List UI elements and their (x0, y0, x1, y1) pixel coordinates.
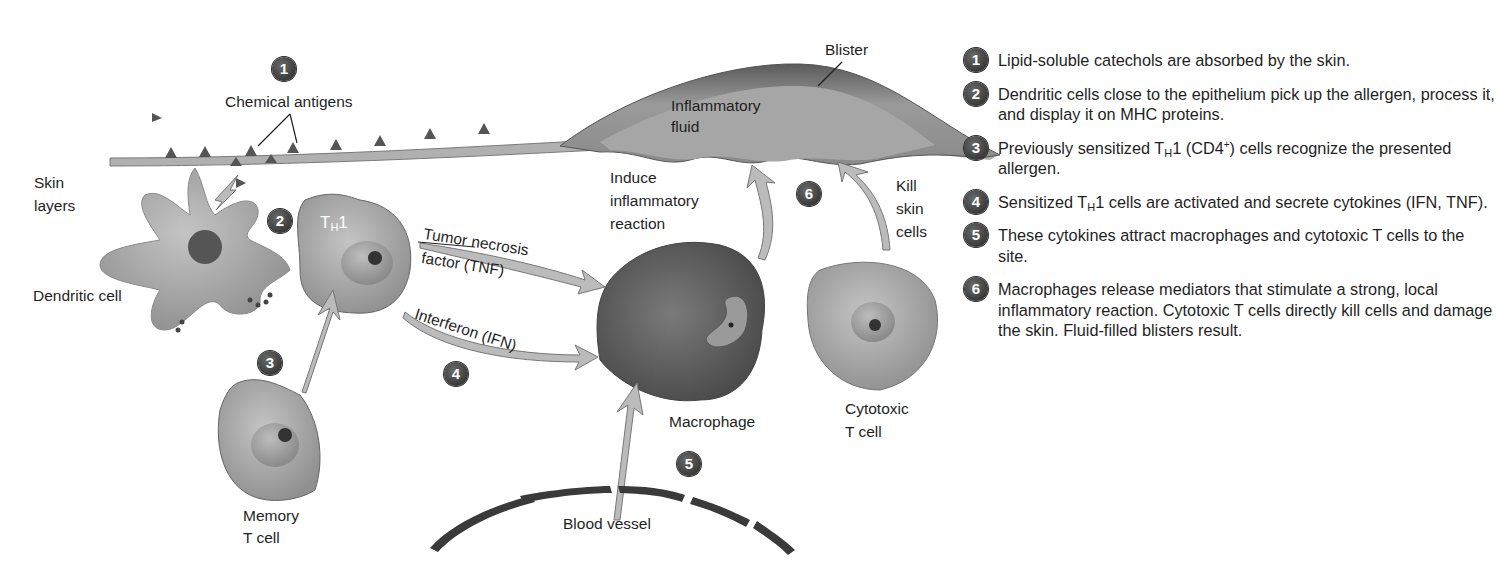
induce-label-line1: Induce (610, 169, 657, 187)
kill-label-line2: skin (896, 200, 924, 218)
step-item-4: 4 Sensitized TH1 cells are activated and… (958, 192, 1498, 213)
memory-t-cell-label-line1: Memory (243, 507, 299, 525)
step-text-1: Lipid-soluble catechols are absorbed by … (998, 51, 1350, 69)
step-list-badge-2: 2 (964, 82, 988, 106)
dendritic-cell-label: Dendritic cell (33, 287, 122, 305)
induce-label-line2: inflammatory (610, 192, 699, 210)
step-item-1: 1 Lipid-soluble catechols are absorbed b… (958, 50, 1498, 71)
blood-vessel-label: Blood vessel (563, 515, 651, 533)
step-list-badge-4: 4 (964, 190, 988, 214)
step-item-3: 3 Previously sensitized TH1 (CD4+) cells… (958, 138, 1498, 179)
step-badge-4: 4 (444, 362, 468, 386)
skin-layers-label-line2: layers (34, 197, 75, 215)
step-list-badge-6: 6 (964, 277, 988, 301)
blister-label: Blister (825, 41, 868, 59)
step-text-6: Macrophages release mediators that stimu… (998, 280, 1492, 339)
step-text-5: These cytokines attract macrophages and … (998, 226, 1464, 265)
blister (560, 64, 1000, 165)
antigen-leader-line (290, 114, 297, 143)
recruitment-arrow (614, 383, 643, 520)
memory-t-cell-label-line2: T cell (243, 529, 280, 547)
memory-t-cell (218, 380, 320, 501)
dendritic-cell (100, 168, 290, 333)
kill-arrow (838, 162, 890, 250)
cytotoxic-t-cell (807, 262, 937, 390)
antigen-leader-line (258, 114, 290, 146)
cytotoxic-t-cell-label-line2: T cell (845, 423, 882, 441)
macrophage-label: Macrophage (669, 413, 755, 431)
cytotoxic-t-cell-label-line1: Cytotoxic (845, 400, 909, 418)
step-badge-3: 3 (258, 351, 282, 375)
th1-t: T (320, 213, 330, 232)
step-badge-2: 2 (268, 209, 292, 233)
step-item-5: 5 These cytokines attract macrophages an… (958, 225, 1498, 266)
skin-layers-label-line1: Skin (34, 174, 64, 192)
step-item-2: 2 Dendritic cells close to the epitheliu… (958, 84, 1498, 125)
kill-label-line3: cells (896, 223, 927, 241)
step-badge-1: 1 (272, 57, 296, 81)
step-text-4: Sensitized TH1 cells are activated and s… (998, 193, 1488, 211)
step-item-6: 6 Macrophages release mediators that sti… (958, 279, 1498, 341)
step-badge-6: 6 (797, 182, 821, 206)
induce-label-line3: reaction (610, 215, 665, 233)
step-list-badge-3: 3 (964, 136, 988, 160)
kill-label-line1: Kill (896, 177, 917, 195)
th1-num: 1 (338, 213, 347, 232)
macrophage-cell (597, 242, 765, 400)
steps-list: 1 Lipid-soluble catechols are absorbed b… (958, 50, 1498, 354)
step-list-badge-1: 1 (964, 48, 988, 72)
inflammatory-fluid-label-line1: Inflammatory (671, 97, 761, 115)
th1-cell-label: TH1 (320, 214, 348, 232)
step-list-badge-5: 5 (964, 223, 988, 247)
step-text-2: Dendritic cells close to the epithelium … (998, 85, 1495, 124)
inflammatory-fluid-label-line2: fluid (671, 118, 699, 136)
step-badge-5: 5 (677, 452, 701, 476)
th1-cell (298, 194, 411, 313)
induce-arrow (747, 165, 775, 260)
step-text-3: Previously sensitized TH1 (CD4+) cells r… (998, 139, 1451, 178)
chemical-antigens-label: Chemical antigens (225, 93, 353, 111)
